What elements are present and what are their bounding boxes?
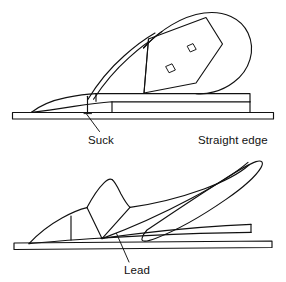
- plane-sole-diagram: Suck Straight edge: [0, 0, 286, 282]
- plane-blade-bottom: [102, 162, 249, 238]
- front-knob-bottom: [29, 208, 87, 244]
- straight-edge-bar-bottom: [14, 241, 272, 250]
- lead-label: Lead: [124, 264, 150, 276]
- straight-edge-bar-top: [13, 113, 274, 120]
- suck-panel: Suck Straight edge: [13, 12, 274, 146]
- straight-edge-label: Straight edge: [198, 134, 268, 146]
- plane-body-top: [96, 94, 250, 113]
- plane-sole-bottom: [29, 224, 251, 243]
- suck-label: Suck: [88, 134, 114, 146]
- tote-handle-bottom: [142, 161, 263, 241]
- lead-panel: Lead: [14, 161, 272, 276]
- plane-sole-top: [32, 94, 251, 113]
- lever-cap-top: [144, 18, 223, 94]
- diagram-root: Suck Straight edge: [0, 0, 286, 282]
